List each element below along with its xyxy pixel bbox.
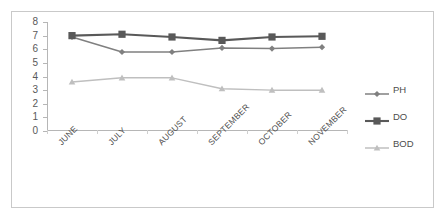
data-point-marker	[219, 45, 225, 51]
legend-marker-icon	[364, 112, 390, 122]
legend-item-bod[interactable]: BOD	[364, 138, 414, 149]
data-point-marker	[118, 31, 125, 38]
legend-marker-icon	[364, 139, 390, 149]
data-point-marker	[218, 37, 225, 44]
series-plot-area	[0, 0, 447, 219]
legend-label: DO	[393, 111, 407, 122]
data-point-marker	[318, 33, 325, 40]
chart-container: 012345678 JUNEJULYAUGUSTSEPTEMBEROCTOBER…	[0, 0, 447, 219]
legend-marker-icon	[364, 85, 390, 95]
data-point-marker	[68, 32, 75, 39]
legend-item-ph[interactable]: PH	[364, 84, 406, 95]
data-point-marker	[169, 49, 175, 55]
series-bod	[69, 75, 326, 93]
series-do	[68, 31, 325, 44]
data-point-marker	[269, 45, 275, 51]
legend-label: BOD	[393, 138, 414, 149]
data-point-marker	[268, 33, 275, 40]
data-point-marker	[319, 44, 325, 50]
data-point-marker	[168, 33, 175, 40]
legend-label: PH	[393, 84, 406, 95]
legend-item-do[interactable]: DO	[364, 111, 407, 122]
data-point-marker	[119, 49, 125, 55]
